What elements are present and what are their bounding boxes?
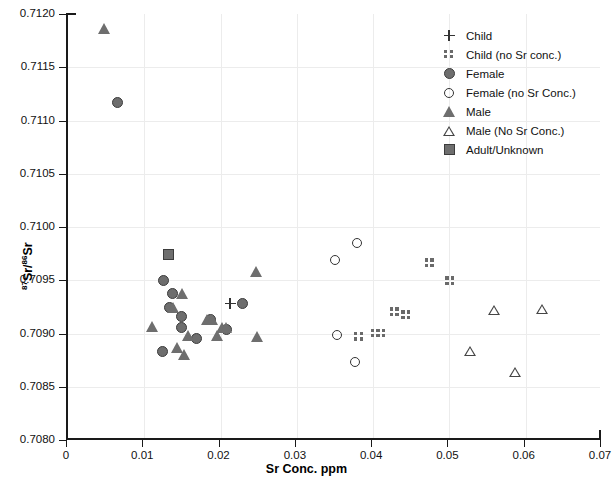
marker-open-triangle bbox=[509, 367, 521, 377]
marker-dot bbox=[445, 282, 448, 285]
marker-dot bbox=[382, 334, 385, 337]
marker-dot bbox=[430, 258, 433, 261]
y-axis-top-cap bbox=[66, 13, 76, 15]
gridline-horizontal bbox=[68, 280, 600, 281]
marker-four-dots bbox=[401, 310, 411, 320]
legend-item-filled-triangle: Male bbox=[441, 102, 591, 121]
y-axis-tick bbox=[59, 280, 66, 281]
gridline-horizontal bbox=[68, 174, 600, 175]
gridline-vertical bbox=[144, 14, 145, 438]
data-point bbox=[163, 249, 174, 260]
marker-dot bbox=[354, 337, 357, 340]
marker-filled-square bbox=[163, 249, 174, 260]
marker-dot bbox=[450, 55, 453, 58]
legend-marker bbox=[441, 67, 457, 80]
marker-filled-triangle bbox=[250, 266, 262, 277]
marker-filled-circle bbox=[112, 97, 123, 108]
marker-open-circle bbox=[444, 88, 454, 98]
y-axis-tick bbox=[59, 67, 66, 68]
legend-item-open-triangle: Male (No Sr Conc.) bbox=[441, 121, 591, 140]
marker-open-circle bbox=[350, 357, 360, 367]
x-axis-tick-label: 0.07 bbox=[589, 449, 611, 461]
x-axis-tick bbox=[66, 440, 67, 447]
y-axis-tick bbox=[59, 440, 66, 441]
data-point bbox=[509, 367, 521, 377]
marker-filled-circle bbox=[157, 346, 168, 357]
marker-filled-triangle bbox=[178, 349, 190, 360]
marker-dot bbox=[390, 313, 393, 316]
gridline-vertical bbox=[297, 14, 298, 438]
legend-marker bbox=[441, 143, 457, 156]
data-point bbox=[157, 346, 168, 357]
scatter-plot-figure: 87Sr/86Sr Sr Conc. ppm ChildChild (no Sr… bbox=[0, 0, 613, 485]
marker-plus bbox=[444, 30, 455, 41]
data-point bbox=[251, 331, 263, 342]
x-axis-tick-label: 0.01 bbox=[131, 449, 153, 461]
data-point bbox=[225, 298, 236, 309]
data-point bbox=[488, 305, 500, 315]
marker-dot bbox=[450, 50, 453, 53]
marker-dot bbox=[451, 282, 454, 285]
data-point bbox=[167, 302, 179, 313]
legend: ChildChild (no Sr conc.)FemaleFemale (no… bbox=[441, 26, 591, 159]
gridline-vertical bbox=[373, 14, 374, 438]
legend-item-open-circle: Female (no Sr Conc.) bbox=[441, 83, 591, 102]
y-axis-title-end: Sr bbox=[21, 242, 35, 255]
marker-filled-circle bbox=[158, 275, 169, 286]
legend-item-dots: Child (no Sr conc.) bbox=[441, 45, 591, 64]
x-axis-tick-label: 0.06 bbox=[513, 449, 535, 461]
marker-four-dots bbox=[376, 329, 386, 339]
marker-four-dots bbox=[354, 332, 364, 342]
data-point bbox=[330, 255, 340, 265]
marker-dot bbox=[354, 332, 357, 335]
marker-four-dots bbox=[445, 276, 455, 286]
legend-label: Adult/Unknown bbox=[466, 144, 543, 156]
marker-open-circle bbox=[330, 255, 340, 265]
data-point bbox=[146, 321, 158, 332]
marker-dot bbox=[451, 276, 454, 279]
data-point bbox=[376, 329, 386, 339]
y-axis-tick-label: 0.7115 bbox=[5, 60, 55, 72]
data-point bbox=[352, 238, 362, 248]
data-point bbox=[390, 307, 400, 317]
legend-label: Female (no Sr Conc.) bbox=[466, 87, 576, 99]
gridline-horizontal bbox=[68, 387, 600, 388]
y-axis-tick-label: 0.7120 bbox=[5, 7, 55, 19]
data-point bbox=[182, 330, 194, 341]
y-axis-tick bbox=[59, 174, 66, 175]
y-axis-tick-label: 0.7090 bbox=[5, 327, 55, 339]
marker-dot bbox=[407, 310, 410, 313]
marker-dot bbox=[395, 313, 398, 316]
y-axis-tick-label: 0.7085 bbox=[5, 380, 55, 392]
marker-filled-triangle bbox=[176, 288, 188, 299]
marker-open-triangle bbox=[536, 304, 548, 314]
marker-dot bbox=[401, 310, 404, 313]
data-point bbox=[536, 304, 548, 314]
marker-dot bbox=[371, 334, 374, 337]
gridline-vertical bbox=[221, 14, 222, 438]
x-axis-tick-label: 0.02 bbox=[207, 449, 229, 461]
y-axis-tick-label: 0.7105 bbox=[5, 167, 55, 179]
marker-dot bbox=[382, 329, 385, 332]
legend-label: Male (No Sr Conc.) bbox=[466, 125, 564, 137]
marker-dot bbox=[360, 337, 363, 340]
legend-marker bbox=[441, 124, 457, 137]
legend-item-plus: Child bbox=[441, 26, 591, 45]
marker-dot bbox=[360, 332, 363, 335]
marker-dot bbox=[445, 276, 448, 279]
x-axis-tick bbox=[295, 440, 296, 447]
legend-marker bbox=[441, 48, 457, 61]
marker-dot bbox=[425, 258, 428, 261]
marker-filled-triangle bbox=[211, 330, 223, 341]
marker-filled-triangle bbox=[443, 106, 455, 117]
y-axis-tick-label: 0.7080 bbox=[5, 433, 55, 445]
data-point bbox=[354, 332, 364, 342]
legend-marker bbox=[441, 29, 457, 42]
marker-filled-triangle bbox=[167, 302, 179, 313]
x-axis-tick bbox=[524, 440, 525, 447]
data-point bbox=[350, 357, 360, 367]
marker-dot bbox=[430, 264, 433, 267]
legend-label: Child bbox=[466, 30, 492, 42]
legend-label: Female bbox=[466, 68, 504, 80]
legend-item-filled-square: Adult/Unknown bbox=[441, 140, 591, 159]
